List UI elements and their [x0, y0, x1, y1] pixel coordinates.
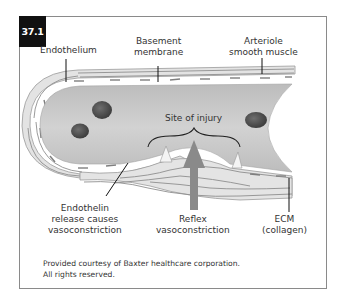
red-blood-cell: [245, 112, 267, 128]
label-basement-membrane: Basement membrane: [134, 36, 183, 58]
label-ecm-line1: ECM: [262, 214, 307, 225]
label-arteriole-smooth-muscle: Arteriole smooth muscle: [229, 36, 298, 58]
label-endothelium: Endothelium: [40, 45, 97, 56]
image-credit: Provided courtesy of Baxter healthcare c…: [43, 258, 240, 280]
label-arteriole-line1: Arteriole: [229, 36, 298, 47]
credit-line1: Provided courtesy of Baxter healthcare c…: [43, 258, 240, 269]
label-reflex-line2: vasoconstriction: [156, 225, 230, 236]
label-site-of-injury: Site of injury: [165, 113, 222, 124]
label-basement-line1: Basement: [134, 36, 183, 47]
label-arteriole-line2: smooth muscle: [229, 47, 298, 58]
label-basement-line2: membrane: [134, 47, 183, 58]
label-reflex-vasoconstriction: Reflex vasoconstriction: [156, 214, 230, 236]
red-blood-cell: [71, 124, 89, 139]
red-blood-cell: [92, 101, 112, 119]
label-endothelin-line1: Endothelin: [48, 203, 122, 214]
credit-line2: All rights reserved.: [43, 269, 240, 280]
label-ecm: ECM (collagen): [262, 214, 307, 236]
label-ecm-line2: (collagen): [262, 225, 307, 236]
label-endothelin-line2: release causes: [48, 214, 122, 225]
label-endothelin-line3: vasoconstriction: [48, 225, 122, 236]
label-endothelin: Endothelin release causes vasoconstricti…: [48, 203, 122, 236]
label-reflex-line1: Reflex: [156, 214, 230, 225]
